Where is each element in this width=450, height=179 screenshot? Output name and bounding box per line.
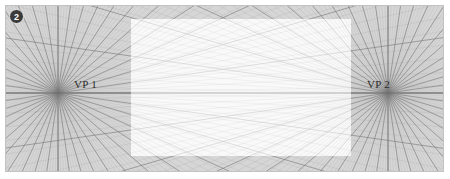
vanishing-point-1-label: VP 1 [74, 78, 97, 90]
grid-canvas: VP 1 VP 2 [5, 5, 444, 172]
perspective-grid-figure: VP 1 VP 2 2 [0, 0, 450, 179]
vanishing-point-2-label: VP 2 [367, 78, 390, 90]
step-number-badge: 2 [9, 9, 24, 24]
